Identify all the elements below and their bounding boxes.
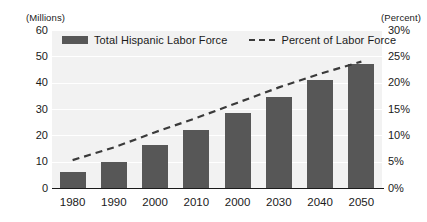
gridline — [52, 56, 382, 57]
bar — [348, 64, 374, 188]
left-axis-tick-label: 50 — [36, 51, 48, 62]
left-axis-tick-label: 20 — [36, 130, 48, 141]
right-axis-tick-label: 25% — [388, 51, 410, 62]
right-axis-unit-caption: (Percent) — [381, 12, 421, 23]
gridline — [52, 30, 382, 31]
right-axis-tick-label: 10% — [388, 130, 410, 141]
bar — [101, 162, 127, 188]
right-axis-tick-label: 5% — [388, 156, 404, 167]
legend-label: Percent of Labor Force — [281, 34, 396, 46]
left-axis-tick-label: 40 — [36, 77, 48, 88]
plot-area — [52, 30, 382, 188]
right-axis-tick-label: 0% — [388, 183, 404, 194]
left-axis-unit-caption: (Millions) — [26, 12, 65, 23]
bar — [60, 172, 86, 188]
right-axis-tick-label: 20% — [388, 77, 410, 88]
x-axis-tick-label: 2010 — [175, 196, 217, 208]
x-axis-tick-label: 2040 — [299, 196, 341, 208]
chart-figure: (Millions) (Percent) 6050403020100 30%25… — [0, 0, 427, 222]
left-axis-tick-label: 0 — [42, 183, 48, 194]
bar — [142, 145, 168, 188]
x-axis-tick-label: 1990 — [93, 196, 135, 208]
x-axis-baseline — [52, 188, 384, 189]
x-axis-tick-label: 2000 — [134, 196, 176, 208]
legend-bar-swatch-icon — [62, 36, 88, 44]
x-axis-tick-label: 2050 — [340, 196, 382, 208]
legend-entry: Total Hispanic Labor Force — [62, 34, 227, 46]
legend-entry: Percent of Labor Force — [249, 34, 396, 46]
left-axis-tick-label: 60 — [36, 25, 48, 36]
bar — [183, 130, 209, 188]
right-axis-tick-label: 15% — [388, 104, 410, 115]
legend-dashed-line-swatch-icon — [249, 36, 275, 44]
x-axis-tick-label: 1980 — [52, 196, 94, 208]
bar — [266, 97, 292, 188]
chart-legend: Total Hispanic Labor ForcePercent of Lab… — [62, 34, 396, 46]
x-axis-tick-label: 2030 — [258, 196, 300, 208]
x-axis-tick-label: 2000 — [217, 196, 259, 208]
legend-label: Total Hispanic Labor Force — [94, 34, 227, 46]
left-axis-tick-label: 10 — [36, 156, 48, 167]
bar — [307, 80, 333, 188]
bar — [225, 113, 251, 188]
left-axis-tick-label: 30 — [36, 104, 48, 115]
